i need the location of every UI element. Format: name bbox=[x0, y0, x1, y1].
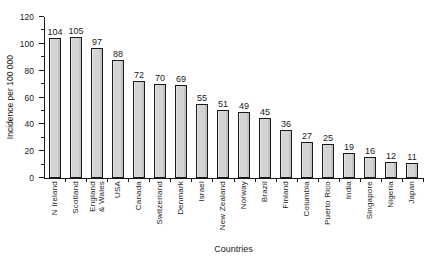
bar bbox=[154, 84, 166, 178]
bar bbox=[322, 144, 334, 178]
bar bbox=[343, 153, 355, 178]
x-tick-mark bbox=[86, 179, 87, 182]
bar bbox=[49, 38, 61, 178]
x-category-label-text: Finland bbox=[281, 181, 291, 209]
bar-value-label: 69 bbox=[167, 74, 195, 84]
x-category-label-text: Brazil bbox=[260, 181, 270, 202]
y-minor-tick-mark bbox=[41, 110, 44, 111]
x-tick-mark bbox=[65, 179, 66, 182]
x-category-label: England & Wales bbox=[88, 181, 107, 212]
x-category-label: N Ireland bbox=[50, 181, 60, 215]
x-category-label-text: N Ireland bbox=[50, 181, 60, 215]
x-axis-title: Countries bbox=[44, 244, 423, 254]
bar bbox=[280, 130, 292, 178]
x-category-label-text: Canada bbox=[134, 181, 144, 210]
x-category-label: Singapore bbox=[365, 181, 375, 219]
bar bbox=[112, 60, 124, 178]
x-category-label: Denmark bbox=[176, 181, 186, 215]
x-category-label: Canada bbox=[134, 181, 144, 210]
bar bbox=[364, 157, 376, 178]
bar bbox=[259, 118, 271, 178]
y-tick-label: 0 bbox=[8, 173, 34, 183]
x-category-label-text: England & Wales bbox=[88, 181, 107, 212]
bar-value-label: 105 bbox=[62, 26, 90, 36]
x-category-label-text: Puerto Rico bbox=[323, 181, 333, 225]
x-category-label: Scotland bbox=[71, 181, 81, 214]
x-category-label: Brazil bbox=[260, 181, 270, 202]
x-category-label: Switzerland bbox=[155, 181, 165, 225]
bar bbox=[133, 81, 145, 178]
bar-value-label: 36 bbox=[272, 119, 300, 129]
bar-value-label: 11 bbox=[398, 152, 426, 162]
x-tick-mark bbox=[318, 179, 319, 182]
x-tick-mark bbox=[149, 179, 150, 182]
bar bbox=[238, 112, 250, 178]
x-category-label: Israel bbox=[197, 181, 207, 202]
x-category-label: Columbia bbox=[302, 181, 312, 216]
x-tick-mark bbox=[255, 179, 256, 182]
y-tick-mark bbox=[39, 150, 44, 151]
x-category-label: Japan bbox=[407, 181, 417, 204]
x-tick-mark bbox=[234, 179, 235, 182]
y-minor-tick-mark bbox=[41, 137, 44, 138]
x-category-label: India bbox=[344, 181, 354, 199]
bar bbox=[175, 85, 187, 178]
y-tick-mark bbox=[39, 123, 44, 124]
x-category-label: Nigeria bbox=[386, 181, 396, 208]
bar-value-label: 97 bbox=[83, 37, 111, 47]
x-category-label-text: Japan bbox=[407, 181, 417, 204]
bar-chart: Incidence per 100 000 Countries 02040608… bbox=[0, 0, 433, 266]
x-category-label: New Zealand bbox=[218, 181, 228, 230]
y-tick-label: 40 bbox=[8, 119, 34, 129]
x-category-label-text: Nigeria bbox=[386, 181, 396, 208]
bar bbox=[385, 162, 397, 178]
y-tick-mark bbox=[39, 43, 44, 44]
bar bbox=[196, 104, 208, 178]
x-tick-mark bbox=[402, 179, 403, 182]
x-tick-mark bbox=[423, 179, 424, 182]
x-category-label-text: Israel bbox=[197, 181, 207, 202]
bar-value-label: 88 bbox=[104, 49, 132, 59]
y-tick-mark bbox=[39, 97, 44, 98]
x-tick-mark bbox=[381, 179, 382, 182]
bar bbox=[301, 142, 313, 178]
x-tick-mark bbox=[360, 179, 361, 182]
x-category-label: Norway bbox=[239, 181, 249, 209]
x-category-label: Puerto Rico bbox=[323, 181, 333, 225]
y-tick-label: 120 bbox=[8, 12, 34, 22]
x-tick-mark bbox=[212, 179, 213, 182]
x-tick-mark bbox=[339, 179, 340, 182]
y-minor-tick-mark bbox=[41, 164, 44, 165]
x-category-label-text: Singapore bbox=[365, 181, 375, 219]
y-tick-mark bbox=[39, 16, 44, 17]
y-tick-mark bbox=[39, 70, 44, 71]
x-category-label-text: Switzerland bbox=[155, 181, 165, 225]
y-tick-label: 60 bbox=[8, 93, 34, 103]
y-minor-tick-mark bbox=[41, 56, 44, 57]
x-category-label-text: Norway bbox=[239, 181, 249, 209]
x-tick-mark bbox=[107, 179, 108, 182]
bar bbox=[70, 37, 82, 178]
x-category-label-text: Scotland bbox=[71, 181, 81, 214]
x-category-label-text: New Zealand bbox=[218, 181, 228, 230]
x-tick-mark bbox=[170, 179, 171, 182]
y-tick-label: 100 bbox=[8, 39, 34, 49]
x-category-label-text: Denmark bbox=[176, 181, 186, 215]
x-tick-mark bbox=[128, 179, 129, 182]
bar-value-label: 45 bbox=[251, 107, 279, 117]
x-category-label: Finland bbox=[281, 181, 291, 209]
x-tick-mark bbox=[276, 179, 277, 182]
y-tick-label: 80 bbox=[8, 66, 34, 76]
x-category-label-text: Columbia bbox=[302, 181, 312, 216]
x-category-label-text: India bbox=[344, 181, 354, 199]
x-category-label-text: USA bbox=[113, 181, 123, 198]
y-minor-tick-mark bbox=[41, 83, 44, 84]
y-tick-label: 20 bbox=[8, 146, 34, 156]
bar bbox=[217, 110, 229, 178]
y-tick-mark bbox=[39, 177, 44, 178]
x-category-label: USA bbox=[113, 181, 123, 198]
x-tick-mark bbox=[191, 179, 192, 182]
bar bbox=[406, 163, 418, 178]
x-tick-mark bbox=[297, 179, 298, 182]
bar bbox=[91, 48, 103, 178]
